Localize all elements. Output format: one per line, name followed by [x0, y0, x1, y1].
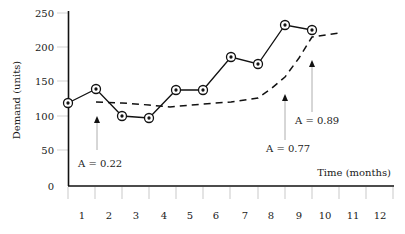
x-tick-label: 12 [374, 210, 387, 221]
y-tick-label: 150 [35, 76, 54, 87]
y-tick-label: 0 [48, 181, 54, 192]
annotation-a089: A = 0.89 [294, 60, 339, 126]
x-axis-label: Time (months) [317, 167, 391, 178]
data-point-marker [172, 86, 181, 95]
x-tick-label: 1 [79, 210, 85, 221]
data-point-marker [118, 112, 127, 121]
x-tick-label: 2 [106, 210, 112, 221]
arrow-up-icon [309, 60, 315, 67]
data-point-marker [145, 114, 154, 123]
data-point-marker [199, 86, 208, 95]
y-tick-label: 200 [35, 42, 54, 53]
x-tick-label: 11 [347, 210, 360, 221]
actual-demand-line [68, 25, 312, 118]
x-tick-label: 9 [296, 210, 302, 221]
y-axis-ticks: 250 200 150 100 50 0 [35, 8, 68, 192]
data-point-marker [308, 26, 317, 35]
x-tick-label: 6 [213, 210, 219, 221]
data-point-marker [254, 60, 263, 69]
x-tick-label: 5 [187, 210, 193, 221]
data-point-marker [281, 21, 290, 30]
annotation-a022: A = 0.22 [77, 116, 122, 169]
arrow-up-icon [94, 116, 100, 123]
y-tick-label: 50 [41, 145, 54, 156]
x-tick-label: 10 [319, 210, 332, 221]
x-tick-label: 3 [133, 210, 139, 221]
y-axis-label: Demand (units) [11, 61, 22, 140]
data-point-marker [92, 85, 101, 94]
demand-chart: Demand (units) 250 200 150 100 50 0 [0, 0, 405, 234]
annotation-label: A = 0.77 [265, 143, 310, 154]
annotation-label: A = 0.89 [294, 115, 339, 126]
arrow-up-icon [282, 94, 288, 101]
x-axis-ticks [68, 187, 393, 199]
annotation-label: A = 0.22 [77, 158, 122, 169]
x-tick-labels: 1 2 3 4 5 6 7 8 9 10 11 12 [79, 210, 387, 221]
actual-demand-markers [64, 21, 317, 123]
x-tick-label: 4 [161, 210, 167, 221]
forecast-dashed-line [96, 33, 340, 107]
data-point-marker [64, 99, 73, 108]
x-tick-label: 8 [268, 210, 274, 221]
data-point-marker [227, 53, 236, 62]
x-tick-label: 7 [242, 210, 248, 221]
y-tick-label: 250 [35, 8, 54, 19]
y-tick-label: 100 [35, 111, 54, 122]
